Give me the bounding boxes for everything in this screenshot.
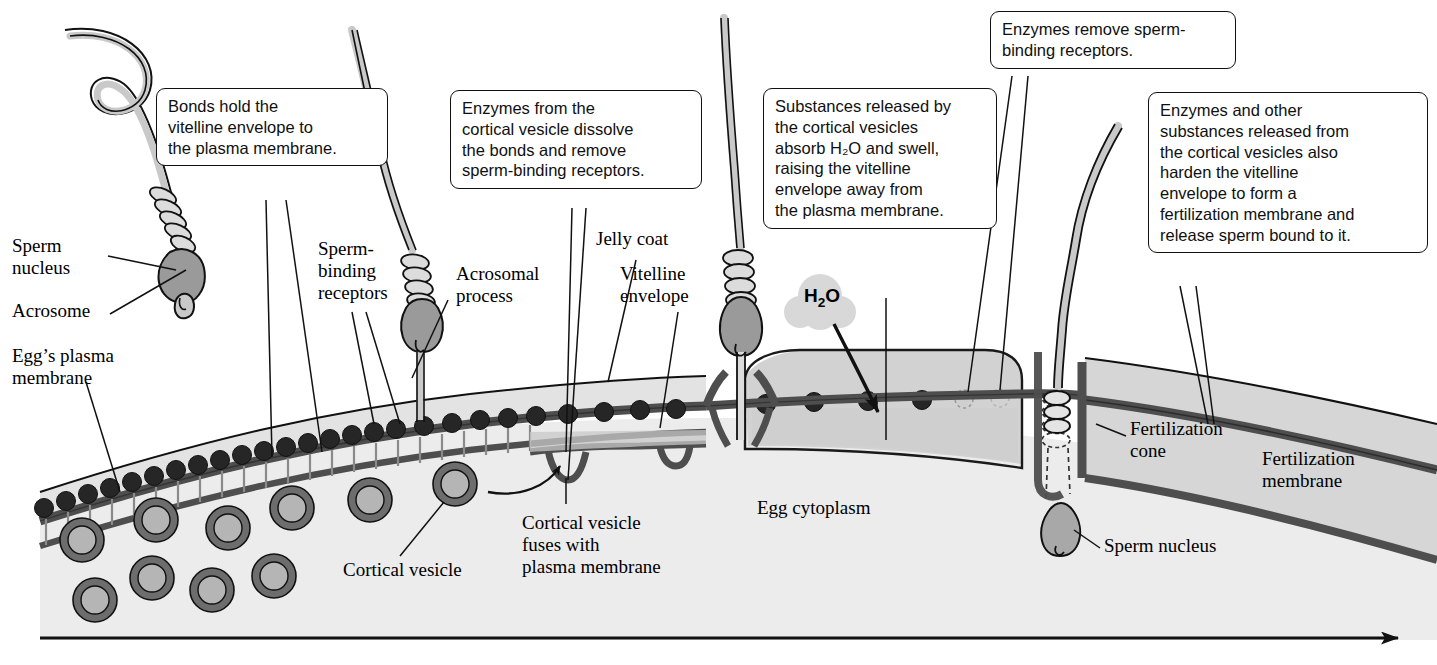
cortical-vesicle <box>60 518 104 562</box>
label-sperm-binding-receptors: Sperm- binding receptors <box>318 238 388 304</box>
acrosome-shape <box>175 294 194 319</box>
cortical-vesicle <box>134 498 178 542</box>
cortical-vesicle <box>190 568 234 612</box>
label-cortical-vesicle: Cortical vesicle <box>343 559 462 581</box>
sperm-cell-left <box>65 29 205 319</box>
label-fertilization-cone: Fertilization cone <box>1130 418 1223 462</box>
h2o-h: H <box>804 285 818 306</box>
sperm-cell-fusing <box>706 18 776 446</box>
callout-enzymes-dissolve[interactable]: Enzymes from the cortical vesicle dissol… <box>450 90 702 189</box>
label-sperm-nucleus-right: Sperm nucleus <box>1104 535 1216 557</box>
cortical-vesicle <box>73 578 117 622</box>
sperm-midpiece <box>147 184 197 256</box>
h2o-label: H2O <box>804 285 840 310</box>
label-vitelline-envelope: Vitelline envelope <box>620 263 689 307</box>
leader-bonds-a <box>266 200 272 457</box>
sperm-nucleus-shape <box>720 297 762 356</box>
cortical-vesicle <box>130 556 174 600</box>
sperm-tail <box>1058 126 1118 388</box>
leader-remove-receptors-b <box>1000 76 1028 390</box>
callout-enzymes-harden-envelope[interactable]: Enzymes and other substances released fr… <box>1148 92 1428 253</box>
label-cortical-vesicle-fuses: Cortical vesicle fuses with plasma membr… <box>522 512 661 578</box>
callout-substances-absorb-water[interactable]: Substances released by the cortical vesi… <box>763 88 997 229</box>
cortical-vesicle <box>270 486 314 530</box>
label-acrosome: Acrosome <box>12 300 90 322</box>
figure-canvas: Bonds hold the vitelline envelope to the… <box>0 0 1437 665</box>
cortical-vesicle <box>252 554 296 598</box>
cortical-vesicle <box>348 478 392 522</box>
callout-bonds-hold[interactable]: Bonds hold the vitelline envelope to the… <box>156 88 388 166</box>
sperm-tail-body <box>70 35 168 200</box>
leader-bonds-b <box>286 200 322 452</box>
cortical-vesicle <box>433 462 477 506</box>
label-jelly-coat: Jelly coat <box>596 228 668 250</box>
h2o-o: O <box>825 285 840 306</box>
label-acrosomal-process: Acrosomal process <box>456 263 539 307</box>
label-sperm-nucleus-left: Sperm nucleus <box>12 235 70 279</box>
label-fertilization-membrane: Fertilization membrane <box>1262 448 1355 492</box>
sperm-tail <box>724 18 740 248</box>
cortical-vesicle <box>206 506 250 550</box>
label-eggs-plasma-membrane: Egg’s plasma membrane <box>12 345 114 389</box>
callout-enzymes-remove-receptors[interactable]: Enzymes remove sperm- binding receptors. <box>990 11 1236 69</box>
sperm-midpiece <box>1044 391 1070 433</box>
label-egg-cytoplasm: Egg cytoplasm <box>757 497 870 519</box>
